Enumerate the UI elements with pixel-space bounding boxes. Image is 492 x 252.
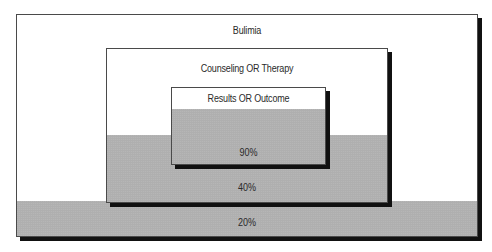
- outer-box-percent: 20%: [40, 217, 454, 228]
- middle-box-label: Counseling OR Therapy: [121, 63, 373, 74]
- outer-box-label: Bulimia: [40, 25, 454, 36]
- middle-box-percent: 40%: [121, 182, 373, 193]
- inner-box-results-or-outcome: Results OR Outcome 90%: [171, 87, 326, 165]
- inner-box-percent: 90%: [180, 147, 318, 158]
- inner-box-label: Results OR Outcome: [180, 93, 318, 104]
